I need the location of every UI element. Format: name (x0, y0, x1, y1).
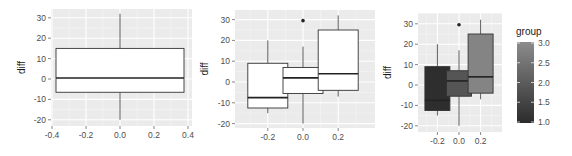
panel-3: -20-100102030-0.20.00.2diff (382, 13, 502, 146)
y-tick-label: 20 (37, 33, 47, 43)
y-tick-label: -10 (34, 94, 47, 104)
y-axis-title: diff (16, 61, 27, 74)
y-tick-label: 30 (37, 13, 47, 23)
y-tick-label: 10 (37, 54, 47, 64)
legend-tick-label: 2.5 (538, 58, 550, 68)
x-tick-label: 0.0 (453, 136, 465, 146)
x-tick-label: -0.2 (260, 132, 275, 142)
y-tick-label: 20 (221, 35, 231, 45)
y-axis-title: diff (382, 66, 393, 79)
x-tick-label: 0.2 (148, 130, 160, 140)
legend-tick-label: 2.0 (538, 78, 550, 88)
y-tick-label: -20 (34, 115, 47, 125)
legend-tick-label: 1.5 (538, 97, 550, 107)
outlier-point (457, 23, 461, 27)
panel-1: -20-100102030-0.4-0.20.00.20.4diff (16, 9, 194, 140)
x-tick-label: 0.0 (297, 132, 309, 142)
y-tick-label: -10 (218, 98, 231, 108)
box-iqr (283, 67, 323, 93)
box-iqr (318, 30, 358, 90)
y-tick-label: 30 (404, 19, 414, 29)
x-tick-label: -0.2 (430, 136, 445, 146)
y-tick-label: -20 (401, 121, 414, 131)
x-tick-label: 0.0 (114, 130, 126, 140)
y-tick-label: 20 (404, 39, 414, 49)
panel-2: -20-100102030-0.20.00.2diff (199, 10, 375, 142)
box-iqr (248, 63, 288, 108)
y-tick-label: -10 (401, 100, 414, 110)
outlier-point (301, 19, 305, 23)
y-tick-label: 0 (41, 74, 46, 84)
x-tick-label: 0.4 (182, 130, 194, 140)
x-tick-label: 0.2 (332, 132, 344, 142)
x-tick-label: 0.2 (475, 136, 487, 146)
chart-figure: -20-100102030-0.4-0.20.00.20.4diff-20-10… (0, 0, 572, 156)
x-tick-label: -0.4 (45, 130, 60, 140)
y-tick-label: 10 (404, 60, 414, 70)
legend: group3.02.52.01.51.0 (516, 26, 550, 127)
box-iqr (56, 48, 184, 92)
y-tick-label: 0 (408, 80, 413, 90)
box-iqr (468, 34, 493, 93)
legend-tick-label: 1.0 (538, 117, 550, 127)
y-tick-label: -20 (218, 119, 231, 129)
y-axis-title: diff (199, 62, 210, 75)
y-tick-label: 10 (221, 56, 231, 66)
y-tick-label: 0 (225, 77, 230, 87)
legend-tick-label: 3.0 (538, 38, 550, 48)
legend-title: group (516, 26, 542, 37)
y-tick-label: 30 (221, 15, 231, 25)
x-tick-label: -0.2 (79, 130, 94, 140)
